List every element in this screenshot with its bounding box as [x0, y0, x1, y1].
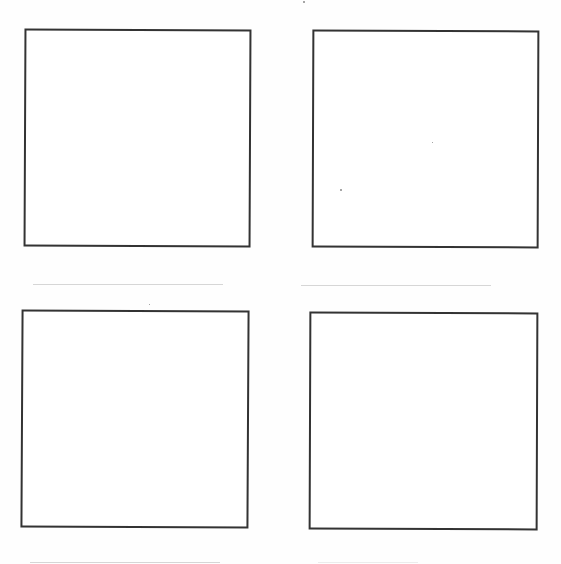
caption-line-3[interactable]: [30, 562, 220, 563]
scan-speck: [303, 1, 305, 3]
scan-speck: [149, 304, 150, 305]
drawing-frame-3[interactable]: [20, 309, 249, 528]
caption-line-4[interactable]: [318, 562, 418, 563]
scan-speck: [432, 142, 433, 143]
caption-line-1[interactable]: [33, 284, 223, 285]
drawing-frame-1[interactable]: [24, 29, 252, 248]
drawing-frame-2[interactable]: [312, 30, 540, 249]
drawing-frame-4[interactable]: [309, 312, 539, 531]
caption-line-2[interactable]: [301, 285, 491, 286]
template-sheet: [0, 0, 561, 564]
scan-speck: [340, 189, 342, 191]
